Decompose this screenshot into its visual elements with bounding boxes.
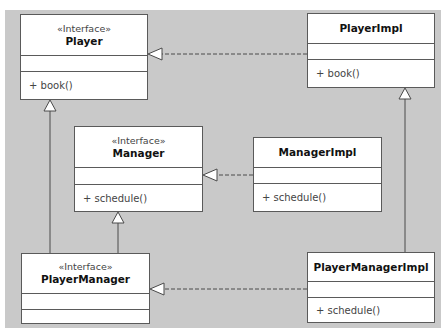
operations-compartment: + schedule() (75, 185, 202, 211)
class-name: PlayerManagerImpl (313, 261, 428, 274)
class-header: «Interface» Player (21, 15, 147, 56)
operations-compartment: + book() (308, 60, 434, 87)
class-managerimpl[interactable]: ManagerImpl + schedule() (253, 137, 382, 212)
operations-compartment: + schedule() (254, 184, 381, 211)
operation: + schedule() (316, 305, 380, 316)
arrowhead-icon (112, 212, 124, 223)
attributes-compartment (254, 168, 381, 184)
attributes-compartment (75, 168, 202, 185)
attributes-compartment (308, 44, 434, 60)
class-playermanager[interactable]: «Interface» PlayerManager (21, 253, 150, 324)
arrowhead-icon (399, 88, 411, 99)
attributes-compartment (21, 56, 147, 72)
class-header: «Interface» PlayerManager (22, 254, 149, 294)
operation: + schedule() (262, 192, 326, 203)
operation: + book() (316, 68, 360, 79)
stereotype-label: «Interface» (57, 23, 111, 35)
stereotype-label: «Interface» (111, 135, 165, 147)
class-header: ManagerImpl (254, 138, 381, 168)
class-name: PlayerImpl (339, 22, 402, 35)
class-name: PlayerManager (41, 273, 130, 286)
operations-compartment (22, 310, 149, 323)
class-name: ManagerImpl (279, 146, 357, 159)
class-header: «Interface» Manager (75, 127, 202, 168)
class-header: PlayerImpl (308, 14, 434, 44)
arrowhead-icon (150, 283, 164, 295)
stereotype-label: «Interface» (58, 261, 112, 273)
class-header: PlayerManagerImpl (308, 253, 434, 282)
class-manager[interactable]: «Interface» Manager + schedule() (74, 126, 203, 212)
class-name: Manager (113, 147, 165, 160)
arrowhead-icon (203, 169, 217, 181)
operation: + book() (29, 80, 73, 91)
operations-compartment: + schedule() (308, 298, 434, 322)
attributes-compartment (22, 294, 149, 310)
attributes-compartment (308, 282, 434, 298)
operations-compartment: + book() (21, 72, 147, 99)
operation: + schedule() (83, 193, 147, 204)
arrowhead-icon (148, 48, 162, 60)
class-playerimpl[interactable]: PlayerImpl + book() (307, 13, 435, 88)
arrowhead-icon (44, 100, 56, 111)
class-playermanagerimpl[interactable]: PlayerManagerImpl + schedule() (307, 252, 435, 323)
class-name: Player (65, 35, 102, 48)
class-player[interactable]: «Interface» Player + book() (20, 14, 148, 100)
